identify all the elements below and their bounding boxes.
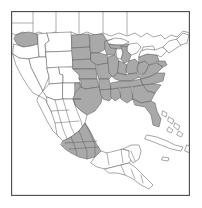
state-minnesota [90, 34, 107, 53]
state-south-dakota [72, 47, 91, 60]
state-wyoming [46, 51, 73, 68]
map-figure [0, 0, 202, 208]
island-bahamas-2 [168, 117, 174, 124]
north-america-map [11, 11, 190, 196]
state-arkansas [99, 79, 111, 90]
map-frame [11, 11, 190, 196]
island-jamaica [162, 157, 169, 161]
state-arizona [43, 83, 63, 100]
island-bahamas-1 [162, 111, 167, 117]
state-alabama [121, 87, 133, 103]
state-indiana [118, 61, 127, 75]
state-north-dakota [72, 34, 90, 48]
state-montana [45, 32, 72, 52]
island-bahamas-3 [174, 123, 180, 130]
island-bahamas-5 [177, 131, 183, 137]
state-mississippi [111, 88, 121, 101]
island-cuba [145, 135, 183, 151]
island-bahamas-4 [167, 127, 173, 133]
state-florida [133, 99, 161, 127]
